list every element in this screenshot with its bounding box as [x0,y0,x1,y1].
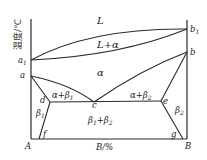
region-liquid-label: L [96,15,104,26]
component-a-label: A [24,141,31,151]
point-d-label: d [40,95,46,105]
phase-diagram: 温度/℃ a1 a b1 b d c e f g A B B/% L L+α α… [0,0,207,160]
component-b-label: B [184,141,191,151]
point-b-label: b [190,47,195,57]
region-alpha-beta1-label: α+β1 [52,90,74,101]
region-beta1-beta2-label: β1+β2 [87,115,113,126]
x-axis-label: B/% [95,142,113,152]
region-beta2-label: β2 [174,105,184,116]
point-e-label: e [163,96,168,106]
region-liquid-alpha-label: L+α [96,39,119,50]
eutectoid-line [50,101,161,102]
region-alpha-beta2-label: α+β2 [130,90,152,101]
beta2-boundary-upper [161,52,187,101]
region-alpha-label: α [97,67,104,78]
point-g-label: g [171,129,177,139]
y-axis-label: 温度/℃ [12,19,23,50]
region-beta1-label: β1 [35,108,45,119]
point-a-label: a [20,70,25,80]
point-b1-label: b1 [190,24,199,35]
point-f-label: f [42,129,48,139]
point-a1-label: a1 [18,55,27,66]
point-c-label: c [92,100,97,110]
